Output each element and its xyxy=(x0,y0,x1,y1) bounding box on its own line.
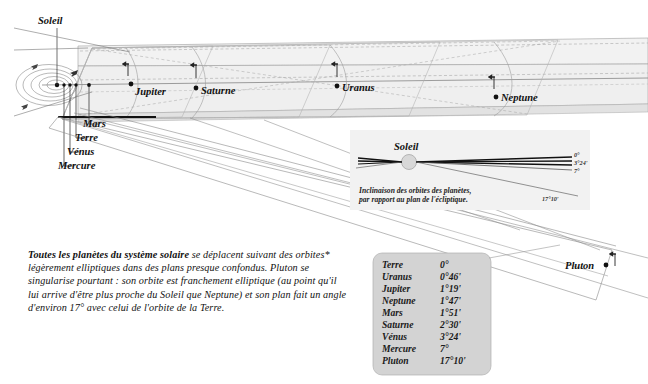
construct-line-2 xyxy=(14,48,88,50)
legend-planet-5: Saturne xyxy=(382,319,414,330)
inset-inclination-panel: Soleil 0° 3°24' 7° 17°10' Inclinaison de… xyxy=(350,130,590,210)
legend-planet-0: Terre xyxy=(382,259,404,270)
dot-uranus xyxy=(335,84,340,89)
inset-angle-0: 0° xyxy=(574,151,580,158)
legend-angle-8: 17°10' xyxy=(440,355,466,366)
label-jupiter: Jupiter xyxy=(134,86,167,97)
label-venus: Vénus xyxy=(67,146,94,157)
label-soleil: Soleil xyxy=(38,15,63,26)
legend-planet-3: Neptune xyxy=(381,295,416,306)
legend-angle-3: 1°47' xyxy=(440,295,461,306)
inclination-legend-box: Terre 0° Uranus 0°46' Jupiter 1°19' Nept… xyxy=(373,253,491,375)
ecliptic-plane-band xyxy=(42,38,648,122)
inset-sun-disc xyxy=(402,155,417,170)
inset-caption-line2: par rapport au plan de l'écliptique. xyxy=(358,195,468,204)
legend-angle-5: 2°30' xyxy=(439,319,461,330)
label-saturne: Saturne xyxy=(201,85,236,96)
label-terre: Terre xyxy=(75,132,98,143)
inset-angle-3-24: 3°24' xyxy=(573,159,588,166)
orbit-direction-arrow-band xyxy=(70,70,78,77)
inset-angle-17-10: 17°10' xyxy=(542,195,559,202)
inset-angle-7: 7° xyxy=(574,167,580,174)
legend-angle-7: 7° xyxy=(440,343,449,354)
paragraph-lead: Toutes les planètes du système solaire xyxy=(28,249,189,260)
legend-planet-7: Mercure xyxy=(381,343,417,354)
label-mars: Mars xyxy=(82,118,106,129)
dot-neptune xyxy=(494,95,499,100)
legend-planet-1: Uranus xyxy=(382,271,412,282)
inset-label-soleil: Soleil xyxy=(394,141,419,152)
legend-planet-8: Pluton xyxy=(382,355,409,366)
legend-angle-2: 1°19' xyxy=(440,283,461,294)
explanatory-paragraph: Toutes les planètes du système solaire s… xyxy=(28,248,350,314)
diagram-canvas: Soleil Pluton Soleil xyxy=(0,0,648,384)
dot-pluton xyxy=(604,263,609,268)
legend-angle-0: 0° xyxy=(440,259,449,270)
label-mercure: Mercure xyxy=(57,160,96,171)
dot-saturne xyxy=(194,86,199,91)
legend-angle-6: 3°24' xyxy=(439,331,461,342)
solar-system-diagram: Soleil Pluton Soleil xyxy=(0,0,648,384)
dot-jupiter xyxy=(129,82,134,87)
sun-and-inner-orbits xyxy=(16,64,82,110)
label-neptune: Neptune xyxy=(500,92,538,103)
legend-planet-6: Vénus xyxy=(382,331,407,342)
band-upper-face xyxy=(78,38,648,66)
inset-caption-line1: Inclinaison des orbites des planètes, xyxy=(358,186,472,195)
label-uranus: Uranus xyxy=(342,82,375,93)
legend-angle-1: 0°46' xyxy=(440,271,461,282)
orbit-direction-arrow-upper xyxy=(31,64,38,70)
label-pluton: Pluton xyxy=(565,260,594,271)
legend-planet-2: Jupiter xyxy=(381,283,411,294)
legend-angle-4: 1°51' xyxy=(440,307,461,318)
legend-planet-4: Mars xyxy=(381,307,403,318)
orbit-direction-arrow-lower xyxy=(21,104,28,110)
